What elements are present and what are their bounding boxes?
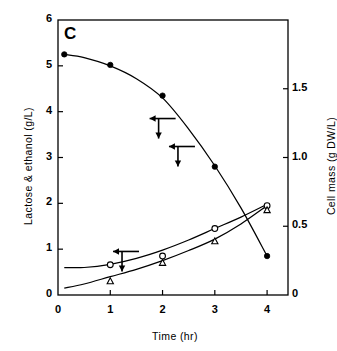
y-tick-left-6: 6: [36, 12, 52, 24]
marker-lactose-2: [160, 93, 165, 98]
y-tick-right-0: 0: [292, 287, 298, 299]
marker-lactose-0: [62, 52, 67, 57]
marker-lactose-4: [264, 253, 269, 258]
y-axis-right-label: Cell mass (g DW/L): [325, 76, 337, 256]
y-tick-left-5: 5: [36, 58, 52, 70]
panel-label: C: [64, 24, 76, 44]
axis-ticks: [58, 66, 288, 295]
marker-cell-mass-0: [107, 278, 113, 284]
arrow-left-axis-lactose: [150, 115, 176, 138]
axis-pointer-arrows: [113, 115, 195, 271]
data-curves: [64, 54, 267, 288]
y-tick-left-4: 4: [36, 104, 52, 116]
arrow-left-axis-ethanol: [113, 248, 139, 271]
marker-lactose-1: [108, 62, 113, 67]
curve-ethanol: [64, 204, 267, 267]
y-tick-left-1: 1: [36, 241, 52, 253]
axis-frame: [58, 20, 288, 295]
x-tick-0: 0: [50, 303, 66, 315]
y-axis-left-label: Lactose & ethanol (g/L): [22, 76, 34, 256]
marker-ethanol-2: [212, 226, 218, 232]
marker-ethanol-0: [107, 262, 113, 268]
figure-panel-c: C Lactose & ethanol (g/L) Cell mass (g D…: [0, 0, 337, 351]
y-tick-left-3: 3: [36, 150, 52, 162]
x-tick-2: 2: [155, 303, 171, 315]
x-tick-1: 1: [102, 303, 118, 315]
x-tick-3: 3: [207, 303, 223, 315]
curve-lactose: [64, 54, 267, 256]
y-tick-right-1.5: 1.5: [292, 81, 307, 93]
marker-ethanol-1: [160, 253, 166, 259]
y-tick-left-0: 0: [36, 287, 52, 299]
marker-cell-mass-2: [212, 238, 218, 244]
y-tick-right-1.0: 1.0: [292, 150, 307, 162]
marker-lactose-3: [212, 164, 217, 169]
curve-cell-mass: [64, 206, 267, 289]
y-tick-right-0.5: 0.5: [292, 218, 307, 230]
x-tick-4: 4: [259, 303, 275, 315]
arrow-right-axis-cellmass: [169, 143, 195, 166]
x-axis-label: Time (hr): [60, 330, 290, 342]
y-tick-left-2: 2: [36, 195, 52, 207]
